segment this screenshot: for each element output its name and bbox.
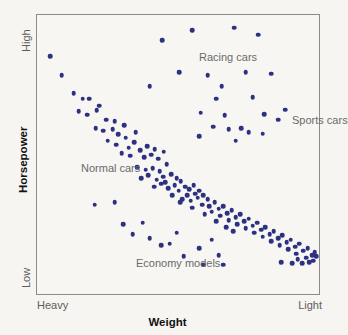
data-point xyxy=(246,130,251,135)
data-point xyxy=(286,247,291,252)
data-point xyxy=(191,183,196,188)
annotation-economy-models: Economy models xyxy=(136,257,220,269)
data-point xyxy=(198,110,203,115)
y-axis-min-tick-label: Low xyxy=(20,268,32,288)
data-point xyxy=(177,70,182,75)
data-point xyxy=(114,142,119,147)
data-point xyxy=(157,169,162,174)
data-point xyxy=(93,126,98,131)
data-point xyxy=(133,130,138,135)
data-point xyxy=(205,197,210,202)
data-point xyxy=(190,28,195,33)
data-point xyxy=(71,91,76,96)
data-point xyxy=(112,200,117,205)
data-point xyxy=(311,258,316,263)
data-point xyxy=(179,179,184,184)
data-point xyxy=(239,126,244,131)
data-point xyxy=(279,260,284,265)
data-point xyxy=(214,96,219,101)
data-point xyxy=(153,147,158,152)
data-point xyxy=(305,246,310,251)
data-point xyxy=(197,134,202,139)
y-axis-title: Horsepower xyxy=(17,127,29,193)
data-point xyxy=(139,176,144,181)
data-point xyxy=(60,73,65,78)
data-point xyxy=(87,96,92,101)
data-point xyxy=(197,246,202,251)
x-axis-min-tick-label: Heavy xyxy=(37,299,68,311)
data-point xyxy=(211,124,216,129)
data-point xyxy=(256,32,261,37)
data-point xyxy=(212,200,217,205)
data-point xyxy=(221,204,226,209)
data-point xyxy=(185,193,190,198)
data-point xyxy=(276,117,281,122)
data-point xyxy=(124,135,129,140)
data-point xyxy=(272,229,277,234)
data-point xyxy=(290,261,295,266)
data-point xyxy=(80,96,85,101)
data-point xyxy=(162,149,167,154)
data-point xyxy=(234,138,239,143)
data-point xyxy=(235,222,240,227)
data-point xyxy=(145,144,150,149)
annotation-normal-cars: Normal cars xyxy=(81,162,140,174)
annotation-sports-cars: Sports cars xyxy=(292,114,348,126)
data-point xyxy=(119,151,124,156)
data-point xyxy=(263,225,268,230)
data-point xyxy=(187,187,192,192)
data-point xyxy=(163,180,168,185)
data-point xyxy=(260,235,265,240)
data-point xyxy=(297,241,302,246)
data-point xyxy=(218,214,223,219)
data-point xyxy=(148,84,153,89)
data-point xyxy=(93,202,98,207)
data-point xyxy=(150,166,155,171)
data-point xyxy=(85,113,90,118)
data-point xyxy=(205,73,210,78)
data-point xyxy=(221,262,226,267)
data-point xyxy=(246,216,251,221)
x-axis-title: Weight xyxy=(0,316,335,328)
data-point xyxy=(262,112,267,117)
data-point xyxy=(200,202,205,207)
data-point xyxy=(122,123,127,128)
data-point xyxy=(269,239,274,244)
data-point xyxy=(283,108,288,113)
data-point xyxy=(219,84,224,89)
data-point xyxy=(156,156,161,161)
data-point xyxy=(174,230,179,235)
data-point xyxy=(229,208,234,213)
data-point xyxy=(224,225,229,230)
data-point xyxy=(243,70,248,75)
data-point xyxy=(104,117,109,122)
data-point xyxy=(167,241,172,246)
data-point xyxy=(76,109,81,114)
data-point xyxy=(172,183,177,188)
data-point xyxy=(188,198,193,203)
data-point xyxy=(128,154,133,159)
data-point xyxy=(176,188,181,193)
data-point xyxy=(232,25,237,30)
data-point xyxy=(146,173,151,178)
data-point xyxy=(101,128,106,133)
data-point xyxy=(195,195,200,200)
data-point xyxy=(222,113,227,118)
data-point xyxy=(131,232,136,237)
data-point xyxy=(126,145,131,150)
data-point xyxy=(255,221,260,226)
data-point xyxy=(250,95,255,100)
data-point xyxy=(161,175,166,180)
plot-area: Racing cars Sports cars Normal cars Econ… xyxy=(36,14,320,295)
data-point xyxy=(294,251,299,256)
data-point xyxy=(110,127,115,132)
data-point xyxy=(155,177,160,182)
data-point xyxy=(132,140,137,145)
data-points-layer xyxy=(37,15,319,294)
data-point xyxy=(314,254,319,259)
data-point xyxy=(226,218,231,223)
data-point xyxy=(169,172,174,177)
data-point xyxy=(252,230,257,235)
data-point xyxy=(170,193,175,198)
data-point xyxy=(277,243,282,248)
